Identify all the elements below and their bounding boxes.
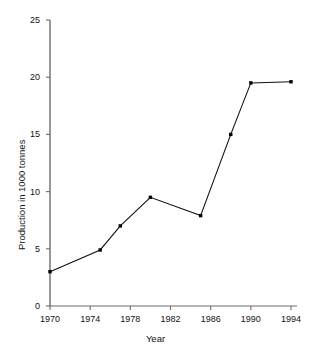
y-tick-label: 25 [16, 15, 40, 25]
x-tick-label: 1974 [73, 314, 107, 324]
data-point-marker [289, 80, 292, 83]
x-tick-label: 1970 [33, 314, 67, 324]
data-point-marker [249, 81, 252, 84]
data-point-marker [48, 270, 51, 273]
data-point-marker [149, 196, 152, 199]
data-point-markers [48, 80, 292, 273]
y-axis-title: Production in 1000 tonnes [16, 140, 27, 250]
chart-canvas [0, 0, 311, 356]
x-tick-label: 1982 [154, 314, 188, 324]
x-tick-label: 1978 [113, 314, 147, 324]
data-series-line [50, 82, 291, 272]
line-chart: 0510152025 1970197419781982198619901994 … [0, 0, 311, 356]
data-point-marker [99, 248, 102, 251]
data-point-marker [199, 214, 202, 217]
x-tick-label: 1990 [234, 314, 268, 324]
y-tick-label: 0 [16, 301, 40, 311]
data-point-marker [119, 224, 122, 227]
y-tick-label: 20 [16, 72, 40, 82]
y-tick-label: 15 [16, 129, 40, 139]
x-tick-label: 1986 [194, 314, 228, 324]
x-tick-label: 1994 [274, 314, 308, 324]
data-point-marker [229, 133, 232, 136]
x-axis-title: Year [0, 333, 311, 344]
